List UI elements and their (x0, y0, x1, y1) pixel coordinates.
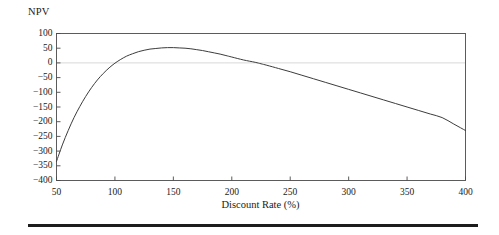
x-tick-label: 200 (212, 187, 252, 197)
y-tick-label: −300 (19, 146, 53, 156)
y-tick-label: −150 (19, 102, 53, 112)
y-tick-label: −250 (19, 131, 53, 141)
y-tick-label: −400 (19, 175, 53, 185)
plot-frame (57, 34, 466, 181)
x-tick-label: 300 (329, 187, 369, 197)
x-axis-title: Discount Rate (%) (0, 198, 499, 211)
y-tick-label: 100 (19, 28, 53, 38)
x-tick-label: 50 (37, 187, 77, 197)
y-tick-label: −100 (19, 87, 53, 97)
npv-sensitivity-figure: NPV 100500−50−100−150−200−250−300−350−40… (0, 0, 499, 235)
x-tick-label: 150 (153, 187, 193, 197)
npv-curve (57, 48, 466, 162)
x-tick-label: 250 (270, 187, 310, 197)
x-tick-label: 350 (387, 187, 427, 197)
x-tick-label: 400 (446, 187, 486, 197)
y-tick-label: −200 (19, 116, 53, 126)
bottom-horizontal-rule (28, 224, 478, 227)
x-tick-label: 100 (95, 187, 135, 197)
axis-tick-marks (57, 34, 466, 181)
y-tick-label: −350 (19, 160, 53, 170)
x-axis-title-text: Discount Rate (%) (221, 198, 299, 211)
y-tick-label: 0 (19, 57, 53, 67)
y-tick-label: 50 (19, 43, 53, 53)
y-tick-label: −50 (19, 72, 53, 82)
